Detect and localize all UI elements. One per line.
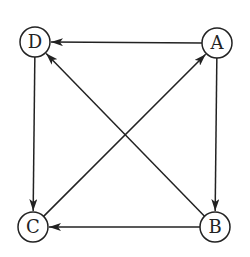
edges [33,42,217,227]
node-d: D [20,27,50,57]
edge-d-to-c [33,57,35,211]
edge-a-to-b [215,58,217,211]
node-label: A [210,32,225,53]
node-label: B [208,216,221,237]
node-a: A [202,28,232,58]
edge-a-to-d [51,42,202,43]
node-b: B [200,212,230,242]
node-label: D [28,31,42,52]
node-c: C [18,212,48,242]
graph-canvas: ABCD [0,0,250,257]
node-label: C [26,216,40,237]
